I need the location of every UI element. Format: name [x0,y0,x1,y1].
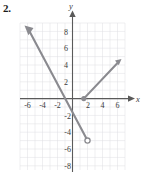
y-tick-label: -6 [64,145,71,154]
increasing-ray [81,59,121,101]
y-tick-label: -2 [64,112,71,121]
y-tick-label: 2 [64,78,68,87]
y-tick-label: -8 [64,162,71,171]
x-tick-label: -4 [39,101,46,110]
open-endpoint [85,138,90,143]
y-tick-label: 6 [64,44,68,53]
problem-number: 2. [3,2,11,14]
y-tick-label: 8 [64,28,68,37]
x-tick-label: -6 [24,101,31,110]
graph-figure: 2. [0,0,145,178]
x-tick-label: -2 [54,101,61,110]
x-axis-label: x [135,94,140,104]
y-tick-label: -4 [64,128,71,137]
y-tick-label: 4 [64,61,68,70]
x-tick-label: 4 [101,101,105,110]
y-axis-label: y [68,1,73,11]
x-tick-labels: -6 -4 -2 2 4 6 [24,101,119,110]
coordinate-plane: -6 -4 -2 2 4 6 8 6 4 2 -2 -4 -6 -8 x y [0,0,145,178]
x-tick-label: 6 [116,101,120,110]
x-tick-label: 2 [86,101,90,110]
